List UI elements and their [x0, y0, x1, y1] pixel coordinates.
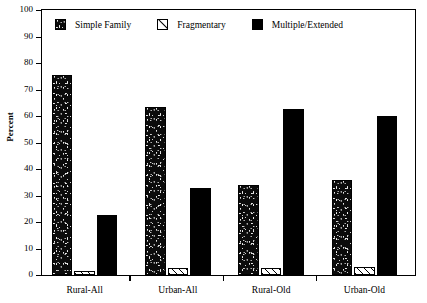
bar — [145, 107, 166, 275]
y-axis-tick-label: 60 — [24, 110, 33, 121]
y-axis-tick: 70 — [0, 90, 41, 91]
bars-area — [42, 10, 415, 275]
y-axis-tick-mark — [36, 63, 41, 64]
y-axis-title: Percent — [5, 97, 15, 157]
y-axis-tick-label: 0 — [29, 269, 34, 280]
bar — [332, 180, 353, 275]
y-axis-tick: 90 — [0, 37, 41, 38]
bar — [52, 75, 73, 275]
bar — [190, 188, 211, 275]
y-axis-tick: 30 — [0, 196, 41, 197]
legend-item-label: Simple Family — [75, 20, 131, 30]
y-axis-tick: 100 — [0, 10, 41, 11]
bar — [74, 271, 95, 275]
y-axis-tick-label: 40 — [24, 163, 33, 174]
y-axis-tick-label: 30 — [24, 190, 33, 201]
y-axis-tick-label: 10 — [24, 243, 33, 254]
legend-item: Multiple/Extended — [252, 19, 369, 30]
y-axis-tick-mark — [36, 90, 41, 91]
y-axis-tick-mark — [36, 116, 41, 117]
hatch-swatch — [157, 19, 168, 30]
y-axis-tick: 50 — [0, 143, 41, 144]
y-axis-tick-mark — [36, 196, 41, 197]
bar-chart: Percent 1009080706050403020100 Rural-All… — [0, 0, 427, 303]
bar-group — [238, 10, 304, 275]
bar-group — [145, 10, 211, 275]
y-axis-tick-mark — [36, 10, 41, 11]
y-axis-tick-mark — [36, 249, 41, 250]
legend: Simple FamilyFragmentaryMultiple/Extende… — [55, 19, 369, 30]
y-axis-tick-mark — [36, 143, 41, 144]
bar — [97, 215, 118, 275]
speckle-swatch — [55, 19, 66, 30]
legend-item-label: Fragmentary — [177, 20, 226, 30]
y-axis-tick: 0 — [0, 275, 41, 276]
y-axis-tick-label: 70 — [24, 84, 33, 95]
x-axis-tick-label: Urban-Old — [344, 285, 385, 295]
solid-swatch — [252, 19, 263, 30]
x-axis-tick-mark — [316, 276, 317, 281]
bar — [261, 268, 282, 275]
bar-group — [332, 10, 398, 275]
bar — [238, 185, 259, 275]
y-axis-tick-label: 90 — [24, 31, 33, 42]
y-axis-tick-mark — [36, 275, 41, 276]
legend-item: Simple Family — [55, 19, 157, 30]
y-axis-tick-mark — [36, 222, 41, 223]
legend-item: Fragmentary — [157, 19, 252, 30]
x-axis-tick-label: Rural-Old — [252, 285, 291, 295]
bar — [283, 109, 304, 275]
bar — [377, 116, 398, 275]
y-axis-tick-mark — [36, 169, 41, 170]
y-axis-tick-label: 80 — [24, 57, 33, 68]
y-axis-tick-label: 100 — [20, 4, 34, 15]
x-axis-tick-mark — [223, 276, 224, 281]
y-axis-tick: 80 — [0, 63, 41, 64]
y-axis-tick: 60 — [0, 116, 41, 117]
y-axis-tick-mark — [36, 37, 41, 38]
bar-group — [52, 10, 118, 275]
legend-item-label: Multiple/Extended — [272, 20, 343, 30]
bar — [354, 267, 375, 275]
y-axis-tick-label: 20 — [24, 216, 33, 227]
y-axis-tick: 10 — [0, 249, 41, 250]
x-axis-tick-label: Urban-All — [158, 285, 197, 295]
x-axis-tick-label: Rural-All — [66, 285, 102, 295]
x-axis-tick-mark — [129, 276, 130, 281]
y-axis-tick-label: 50 — [24, 137, 33, 148]
y-axis-tick: 20 — [0, 222, 41, 223]
y-axis-tick: 40 — [0, 169, 41, 170]
bar — [168, 268, 189, 275]
